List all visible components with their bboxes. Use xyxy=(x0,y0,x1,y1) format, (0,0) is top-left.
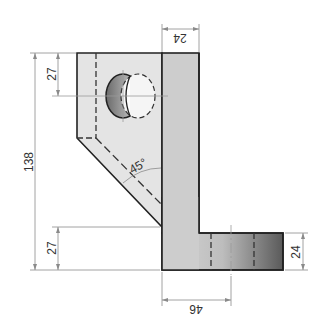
dim-total-height: 138 xyxy=(22,152,36,172)
drawing-svg: 24 27 138 27 24 46 45° xyxy=(0,0,324,331)
dim-bottom-offset: 27 xyxy=(45,241,59,255)
dim-foot-height: 24 xyxy=(289,245,303,259)
dim-top-width: 24 xyxy=(173,31,187,45)
technical-drawing: 24 27 138 27 24 46 45° xyxy=(0,0,324,331)
dim-hole-offset: 27 xyxy=(45,67,59,81)
dim-foot-width: 46 xyxy=(189,302,203,316)
